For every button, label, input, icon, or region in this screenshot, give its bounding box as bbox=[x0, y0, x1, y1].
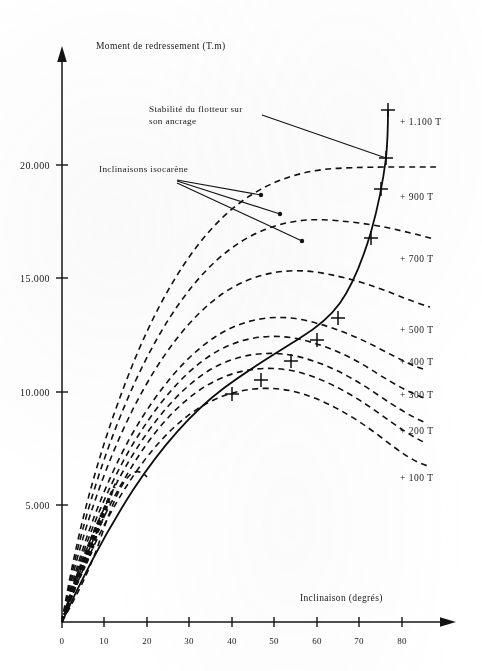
series-label-300t: + 300 T bbox=[400, 390, 434, 400]
curve-300t bbox=[62, 353, 424, 622]
annotation-isocarene-leader-1 bbox=[177, 180, 261, 195]
y-tick-label-20000: 20.000 bbox=[20, 160, 50, 171]
series-label-400t: + 400 T bbox=[400, 357, 434, 367]
annotation-isocarene-leader-2 bbox=[177, 181, 280, 214]
intersection-markers-group bbox=[225, 103, 395, 401]
x-tick-label-70: 70 bbox=[354, 636, 364, 646]
x-tick-label-20: 20 bbox=[142, 636, 152, 646]
x-tick-label-60: 60 bbox=[312, 636, 322, 646]
y-tick-labels: 20.000 15.000 10.000 5.000 bbox=[20, 160, 50, 511]
x-axis-title: Inclinaison (degrés) bbox=[300, 593, 383, 604]
annotation-isocarene: Inclinaisons isocarène bbox=[99, 164, 304, 243]
x-tick-label-40: 40 bbox=[227, 636, 237, 646]
marker-cross-300t bbox=[284, 354, 298, 368]
x-tick-label-50: 50 bbox=[269, 636, 279, 646]
annotation-stabilite-line1: Stabilité du flotteur sur bbox=[149, 104, 243, 114]
y-tick-label-5000: 5.000 bbox=[26, 500, 51, 511]
marker-cross-100t bbox=[225, 387, 239, 401]
y-axis-title: Moment de redressement (T.m) bbox=[96, 41, 225, 52]
x-tick-label-0: 0 bbox=[60, 636, 65, 646]
marker-cross-500t bbox=[331, 311, 345, 325]
annotation-isocarene-dot-2 bbox=[278, 212, 282, 216]
y-tick-label-10000: 10.000 bbox=[20, 387, 50, 398]
annotation-stabilite: Stabilité du flotteur sur son ancrage bbox=[149, 104, 386, 158]
series-label-500t: + 500 T bbox=[400, 325, 434, 335]
curve-400t bbox=[62, 336, 424, 622]
chart-canvas: 20.000 15.000 10.000 5.000 0 10 20 30 40… bbox=[0, 0, 482, 671]
y-axis-arrowhead bbox=[57, 46, 67, 62]
marker-cross-200t bbox=[254, 373, 268, 387]
y-tick-label-15000: 15.000 bbox=[20, 273, 50, 284]
x-tick-labels: 0 10 20 30 40 50 60 70 80 bbox=[60, 636, 407, 646]
fan-line-10 bbox=[62, 494, 112, 622]
x-tick-label-10: 10 bbox=[99, 636, 109, 646]
annotation-isocarene-label: Inclinaisons isocarène bbox=[99, 164, 188, 174]
series-labels-group: + 1.100 T + 900 T + 700 T + 500 T + 400 … bbox=[400, 117, 442, 483]
marker-cross-400t bbox=[310, 333, 324, 347]
curve-100t-main bbox=[62, 388, 428, 622]
curve-100t bbox=[62, 472, 147, 622]
annotation-isocarene-dot-1 bbox=[259, 193, 263, 197]
series-label-1100t: + 1.100 T bbox=[400, 117, 442, 127]
series-label-100t: + 100 T bbox=[400, 473, 434, 483]
isocarene-curves-group bbox=[62, 167, 436, 622]
marker-cross-1100t bbox=[381, 103, 395, 117]
curve-1100t bbox=[62, 167, 436, 622]
series-label-200t: + 200 T bbox=[400, 426, 434, 436]
curve-500t bbox=[62, 317, 426, 622]
x-tick-label-80: 80 bbox=[397, 636, 407, 646]
x-tick-label-30: 30 bbox=[184, 636, 194, 646]
annotation-stabilite-leader bbox=[262, 115, 386, 158]
annotation-isocarene-dot-3 bbox=[300, 239, 304, 243]
marker-cross-900t bbox=[374, 182, 388, 196]
x-axis-arrowhead bbox=[440, 617, 456, 627]
chart-figure: 20.000 15.000 10.000 5.000 0 10 20 30 40… bbox=[0, 0, 482, 671]
curve-700t bbox=[62, 271, 430, 622]
annotation-stabilite-line2: son ancrage bbox=[149, 116, 196, 126]
series-label-700t: + 700 T bbox=[400, 254, 434, 264]
stability-curve bbox=[62, 110, 388, 622]
marker-cross-700t bbox=[364, 231, 378, 245]
series-label-900t: + 900 T bbox=[400, 192, 434, 202]
